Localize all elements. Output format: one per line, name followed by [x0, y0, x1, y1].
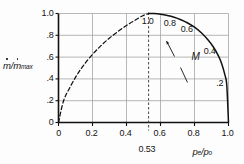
gridlines — [59, 14, 229, 123]
x-axis-title: pe/po — [193, 147, 212, 157]
y-axis-subscript: max — [21, 63, 33, 70]
curve-unattainable-branch-dashed — [59, 14, 149, 123]
axis-lines — [59, 14, 229, 123]
x-tick-label: 0.8 — [188, 129, 200, 138]
y-axis-title: m/mmax — [3, 61, 33, 71]
mass-flow-ratio-chart: 1.0.8.6.4.20 00.20.40.60.81.0 1.00.80.60… — [0, 0, 244, 164]
mach-annotation-label: .2 — [216, 79, 223, 88]
x-tick-label: 0.2 — [86, 129, 98, 138]
y-tick-label: 0 — [49, 118, 54, 127]
y-tick-label: .2 — [46, 96, 53, 105]
x-tick-label: 1.0 — [222, 129, 234, 138]
y-axis-denominator: m — [13, 61, 21, 71]
tick-marks — [56, 14, 229, 127]
x-tick-label: 0.6 — [154, 129, 166, 138]
y-tick-label: 1.0 — [42, 9, 54, 18]
y-axis-numerator: m — [3, 61, 11, 71]
mach-annotation-label: 0.4 — [204, 47, 216, 56]
x-axis-denominator-subscript: o — [209, 149, 212, 156]
x-tick-label: 0.4 — [120, 129, 132, 138]
plot-canvas — [0, 0, 244, 164]
mach-annotation-label: 1.0 — [142, 17, 154, 26]
y-tick-label: .4 — [46, 74, 53, 83]
mach-annotation-label: 0.6 — [181, 25, 193, 34]
y-tick-label: .6 — [46, 53, 53, 62]
y-tick-label: .8 — [46, 31, 53, 40]
x-tick-label: 0 — [56, 129, 61, 138]
mach-arrows — [167, 41, 188, 83]
critical-ratio-label: 0.53 — [139, 145, 156, 154]
mach-symbol-label: M — [192, 52, 200, 62]
mach-arrow-down — [181, 68, 188, 83]
mach-annotation-label: 0.8 — [164, 19, 176, 28]
curve-group — [59, 14, 229, 123]
